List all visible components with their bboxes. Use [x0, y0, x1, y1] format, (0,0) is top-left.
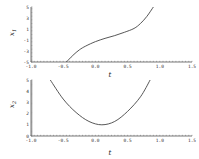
x1-y-axis-label: x1 [8, 29, 17, 36]
figure: 531-1-3-5-1.0-0.50.00.51.01.5 x1 t 54321… [0, 0, 199, 159]
x2-y-axis-label: x2 [8, 101, 17, 108]
y-tick-label: 3 [26, 100, 29, 105]
y-tick-label: 3 [26, 16, 29, 21]
x1-curve [66, 7, 153, 62]
x-tick-label: -0.5 [58, 64, 69, 69]
x-tick-label: 0.5 [124, 64, 132, 69]
y-tick-label: 1 [26, 27, 29, 32]
x1-plot: 531-1-3-5-1.0-0.50.00.51.01.5 x1 t [8, 5, 196, 79]
x-tick-label: 0.0 [91, 138, 99, 143]
x1-x-axis-label: t [109, 71, 112, 79]
x-tick-label: 0.5 [124, 138, 132, 143]
x2-curve [50, 80, 150, 125]
y-tick-label: -1 [24, 38, 30, 43]
x-tick-label: 0.0 [91, 64, 99, 69]
x-tick-label: -1.0 [26, 64, 37, 69]
y-tick-label: 4 [26, 89, 29, 94]
y-tick-label: -3 [24, 49, 30, 54]
y-tick-label: 1 [26, 122, 29, 127]
x-tick-label: -0.5 [58, 138, 69, 143]
x2-axes: 543210-1.0-0.50.00.51.01.5 [26, 78, 197, 143]
y-tick-label: 5 [26, 5, 29, 10]
y-tick-label: 2 [26, 111, 29, 116]
y-tick-label: 5 [26, 78, 29, 83]
x2-x-axis-label: t [109, 149, 112, 157]
x-tick-label: 1.5 [188, 138, 196, 143]
x2-plot: 543210-1.0-0.50.00.51.01.5 x2 t [8, 78, 196, 157]
x-tick-label: 1.0 [156, 138, 164, 143]
x-tick-label: 1.5 [188, 64, 196, 69]
x-tick-label: 1.0 [156, 64, 164, 69]
x-tick-label: -1.0 [26, 138, 37, 143]
